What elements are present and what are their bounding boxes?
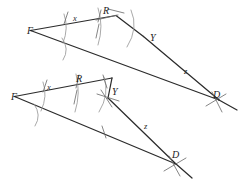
lower-tick-long-ray	[102, 126, 106, 138]
upper-label-z: z	[183, 66, 188, 76]
lower-label-r: R	[75, 73, 82, 84]
upper-arc-near-y	[62, 38, 66, 60]
upper-label-y: Y	[150, 32, 157, 43]
upper-segment-y-d	[144, 37, 220, 101]
upper-tick-3	[108, 9, 124, 13]
upper-segment-f-d	[31, 31, 220, 101]
lower-label-d: D	[171, 149, 180, 160]
lower-label-f: F	[10, 91, 18, 102]
lower-tick-4	[74, 90, 77, 104]
lower-label-z: z	[143, 121, 148, 131]
upper-label-x: x	[72, 13, 77, 23]
lower-label-x: x	[46, 82, 51, 92]
upper-label-d: D	[212, 89, 221, 100]
lower-arc-near-d	[34, 104, 38, 126]
lower-tick-3	[103, 75, 107, 88]
upper-construction: F R Y D x z	[26, 5, 237, 112]
upper-label-r: R	[102, 5, 109, 16]
lower-segment-y-d	[108, 98, 176, 164]
upper-label-f: F	[26, 25, 34, 36]
lower-segment-f-d	[15, 97, 177, 165]
lower-label-y: Y	[112, 86, 119, 97]
geometry-figure: F R Y D x z F R Y D	[0, 0, 245, 195]
lower-segment-d-overshoot	[176, 164, 192, 178]
upper-segment-d-overshoot	[219, 100, 237, 110]
upper-tick-4	[96, 24, 99, 38]
upper-segment-r-y	[116, 16, 144, 37]
lower-construction: F R Y D x z	[10, 73, 192, 178]
